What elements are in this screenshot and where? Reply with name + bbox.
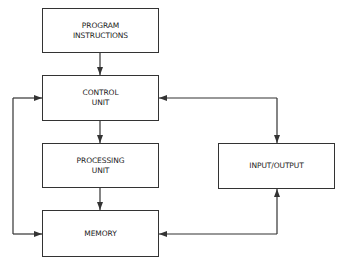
processing-label-line2: UNIT — [92, 166, 110, 176]
input-output-box: INPUT/OUTPUT — [218, 143, 335, 189]
program-label-line2: INSTRUCTIONS — [73, 31, 128, 41]
control-label-line1: CONTROL — [83, 88, 119, 98]
processing-label-line1: PROCESSING — [77, 156, 125, 166]
memory-label: MEMORY — [84, 229, 116, 239]
memory-box: MEMORY — [42, 210, 159, 257]
control-unit-box: CONTROL UNIT — [42, 75, 159, 121]
processing-unit-box: PROCESSING UNIT — [42, 143, 159, 188]
program-instructions-box: PROGRAM INSTRUCTIONS — [42, 8, 159, 53]
io-label: INPUT/OUTPUT — [249, 161, 303, 171]
program-label-line1: PROGRAM — [82, 21, 119, 31]
control-label-line2: UNIT — [92, 98, 110, 108]
